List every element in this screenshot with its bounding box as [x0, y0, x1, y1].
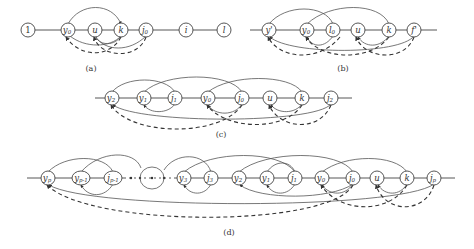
svg-text:l: l — [223, 25, 226, 35]
node-y1: y1 — [137, 91, 151, 105]
graph-diagram: 1 y0 u k j0 i l (a) y' y0 l0 u k f' (b) — [0, 0, 474, 249]
arc-edge — [112, 80, 175, 92]
node-jp: jp — [427, 171, 441, 185]
ellipsis-dot — [130, 177, 132, 179]
arc-edge — [144, 77, 242, 92]
arc-edge — [239, 156, 353, 173]
arc-edge — [208, 79, 302, 93]
svg-text:i: i — [185, 25, 188, 35]
node-y2: y2 — [232, 171, 246, 185]
svg-text:u: u — [374, 173, 379, 183]
node-1: 1 — [21, 23, 35, 37]
node-jp-1: jp-1 — [104, 171, 122, 185]
node-f-prime: f' — [407, 23, 421, 37]
arc-edge — [307, 36, 333, 45]
panel-c: y2 y1 j1 y0 j0 u k j2 (c) — [95, 77, 352, 139]
node-y-prime: y' — [262, 23, 276, 37]
node-u: u — [263, 91, 277, 105]
arc-edge — [81, 184, 113, 195]
node-y0: y0 — [315, 171, 329, 185]
panel-b: y' y0 l0 u k f' (b) — [250, 8, 437, 74]
dashed-edge — [47, 185, 353, 217]
node-l: l — [217, 23, 231, 37]
node-k: k — [114, 23, 128, 37]
node-y2: y2 — [105, 91, 119, 105]
arc-edge — [48, 159, 113, 173]
node-u: u — [370, 171, 384, 185]
svg-text:k: k — [299, 93, 304, 103]
arc-edge — [208, 104, 242, 113]
arc-edge — [68, 8, 121, 25]
arc-edge — [307, 8, 389, 25]
arc-edge — [267, 184, 295, 193]
dashed-edge — [306, 37, 389, 55]
svg-text:f': f' — [410, 25, 416, 35]
node-u: u — [351, 23, 365, 37]
svg-text:k: k — [386, 25, 391, 35]
node-j1: j1 — [168, 91, 182, 105]
panel-d: yp yp-1 jp-1 y3 j3 y2 y1 j1 y0 j0 u k jp… — [27, 155, 455, 237]
svg-text:u: u — [267, 93, 272, 103]
node-j3: j3 — [204, 171, 218, 185]
caption-c: (c) — [216, 130, 227, 139]
arc-edge — [240, 184, 353, 196]
arc-edge — [184, 184, 211, 193]
arc-edge — [144, 104, 175, 112]
node-y0: y0 — [201, 91, 215, 105]
node-k: k — [382, 23, 396, 37]
svg-text:k: k — [118, 25, 123, 35]
node-j0: j0 — [235, 91, 249, 105]
dashed-edge — [321, 185, 407, 207]
svg-text:u: u — [92, 25, 97, 35]
node-yp-1: yp-1 — [72, 171, 90, 185]
panel-a: 1 y0 u k j0 i l (a) — [21, 8, 231, 74]
node-i: i — [179, 23, 193, 37]
node-y0: y0 — [61, 23, 75, 37]
arc-edge — [81, 155, 141, 172]
node-k: k — [295, 91, 309, 105]
ellipsis-dot — [151, 177, 153, 179]
arc-edge — [269, 9, 333, 24]
node-y1: y1 — [260, 171, 274, 185]
arc-edge — [49, 184, 434, 204]
svg-text:k: k — [404, 173, 409, 183]
dashed-edge — [207, 105, 302, 125]
node-yp: yp — [41, 171, 55, 185]
node-j2: j2 — [324, 91, 338, 105]
node-u: u — [88, 23, 102, 37]
node-j1: j1 — [288, 171, 302, 185]
node-y0: y0 — [300, 23, 314, 37]
arc-edge — [270, 36, 414, 50]
caption-d: (d) — [223, 228, 234, 237]
node-y3: y3 — [177, 171, 191, 185]
svg-text:1: 1 — [25, 25, 30, 35]
node-j0: j0 — [139, 23, 153, 37]
node-k: k — [400, 171, 414, 185]
caption-b: (b) — [337, 64, 348, 73]
svg-text:y': y' — [264, 25, 272, 35]
caption-a: (a) — [85, 64, 96, 73]
node-l0: l0 — [326, 23, 340, 37]
arc-edge — [358, 36, 389, 45]
arc-edge — [322, 159, 407, 173]
node-j0: j0 — [346, 171, 360, 185]
svg-text:u: u — [355, 25, 360, 35]
